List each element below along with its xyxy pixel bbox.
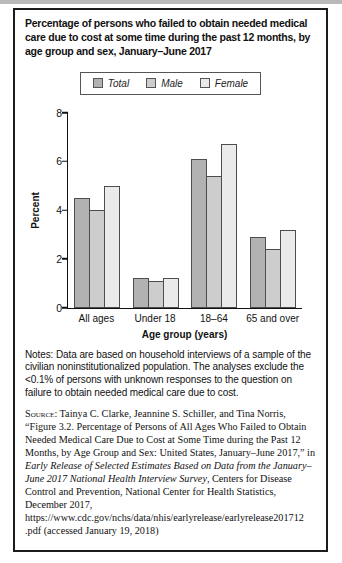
source-text: Source: Tainya C. Clarke, Jeannine S. Sc… — [25, 407, 316, 537]
x-category-18-64: 18–64 — [185, 313, 244, 324]
bar-under-18-female — [163, 278, 179, 307]
legend-swatch-female — [200, 78, 210, 88]
legend-label-female: Female — [215, 78, 248, 89]
bar-under-18-total — [133, 278, 149, 307]
notes-text: Notes: Data are based on household inter… — [25, 349, 316, 400]
bar-chart: Percent 02468 — [67, 113, 302, 309]
source-segment-1: Tainya C. Clarke, Jeannine S. Schiller, … — [25, 408, 315, 458]
legend-swatch-male — [146, 78, 156, 88]
bar-18-64-male — [206, 176, 222, 308]
legend-item-total: Total — [93, 78, 129, 89]
y-tick-mark-2 — [62, 258, 68, 260]
x-category-all-ages: All ages — [67, 313, 126, 324]
x-category-under-18: Under 18 — [126, 313, 185, 324]
bar-group-18-64 — [185, 113, 244, 308]
bar-group-65-and-over — [244, 113, 303, 308]
legend-label-total: Total — [108, 78, 129, 89]
legend-label-male: Male — [161, 78, 183, 89]
plot-area — [68, 113, 302, 308]
bar-18-64-female — [221, 144, 237, 307]
figure-box: Percentage of persons who failed to obta… — [13, 8, 328, 552]
y-tick-mark-0 — [62, 307, 68, 309]
bar-group-all-ages — [68, 113, 127, 308]
bar-18-64-total — [191, 159, 207, 308]
legend: TotalMaleFemale — [80, 72, 261, 95]
page: Percentage of persons who failed to obta… — [0, 0, 342, 563]
bar-65-and-over-female — [280, 230, 296, 308]
legend-item-male: Male — [146, 78, 183, 89]
bar-65-and-over-total — [250, 237, 266, 308]
figure-title: Percentage of persons who failed to obta… — [25, 17, 316, 59]
x-category-65-and-over: 65 and over — [243, 313, 302, 324]
source-label: Source: — [25, 408, 57, 419]
bar-under-18-male — [148, 281, 164, 308]
bar-all-ages-female — [104, 186, 120, 308]
bar-all-ages-total — [74, 198, 90, 308]
y-tick-mark-8 — [62, 112, 68, 114]
scan-edge-artifact — [0, 0, 342, 4]
bar-group-under-18 — [127, 113, 186, 308]
x-category-labels: All agesUnder 1818–6465 and over — [67, 313, 302, 324]
bar-all-ages-male — [89, 210, 105, 308]
y-tick-mark-4 — [62, 209, 68, 211]
y-tick-mark-6 — [62, 161, 68, 163]
bar-65-and-over-male — [265, 249, 281, 308]
legend-swatch-total — [93, 78, 103, 88]
x-axis-label: Age group (years) — [67, 329, 302, 340]
y-axis-label: Percent — [28, 113, 42, 308]
legend-row: TotalMaleFemale — [25, 72, 316, 95]
legend-item-female: Female — [200, 78, 248, 89]
